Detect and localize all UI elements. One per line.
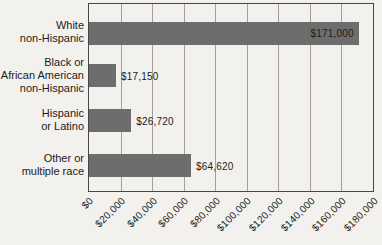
wealth-by-race-bar-chart: $171,000$17,150$26,720$64,620 White non-… xyxy=(0,0,382,245)
category-label-hispanic-or-latino: Hispanic or Latino xyxy=(0,107,84,133)
bar-black-or-african-american-non-hispanic xyxy=(89,64,116,87)
category-label-other-or-multiple-race: Other or multiple race xyxy=(0,152,84,178)
x-tick-label-0: $0 xyxy=(80,195,96,211)
x-tick-label-3: $60,000 xyxy=(156,195,190,229)
bar-value-label-hispanic-or-latino: $26,720 xyxy=(136,115,174,126)
category-label-black-or-african-american-non-hispanic: Black or African American non-Hispanic xyxy=(0,55,84,94)
category-label-white-non-hispanic: White non-Hispanic xyxy=(0,19,84,45)
bar-value-label-black-or-african-american-non-hispanic: $17,150 xyxy=(121,70,159,81)
bar-value-label-white-non-hispanic: $171,000 xyxy=(310,28,353,39)
bar-hispanic-or-latino xyxy=(89,109,131,132)
plot-area: $171,000$17,150$26,720$64,620 xyxy=(88,3,374,192)
bar-value-label-other-or-multiple-race: $64,620 xyxy=(196,160,234,171)
bar-other-or-multiple-race xyxy=(89,154,191,177)
x-tick-label-6: $120,000 xyxy=(247,195,285,233)
x-tick-label-9: $180,000 xyxy=(341,195,379,233)
x-tick-label-1: $20,000 xyxy=(93,195,127,229)
x-tick-label-2: $40,000 xyxy=(125,195,159,229)
